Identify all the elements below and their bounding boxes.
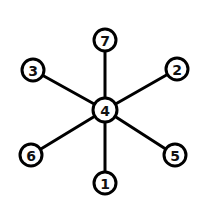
node-3: 3 bbox=[22, 59, 44, 81]
node-label: 2 bbox=[172, 62, 182, 78]
node-label: 4 bbox=[100, 103, 110, 119]
node-label: 6 bbox=[26, 148, 36, 164]
node-7: 7 bbox=[94, 29, 116, 51]
node-2: 2 bbox=[166, 58, 188, 80]
node-4: 4 bbox=[93, 98, 117, 122]
node-label: 7 bbox=[100, 33, 110, 49]
node-label: 1 bbox=[100, 176, 110, 192]
star-graph-diagram: 7324651 bbox=[0, 0, 206, 207]
node-6: 6 bbox=[20, 144, 42, 166]
node-1: 1 bbox=[94, 172, 116, 194]
node-label: 5 bbox=[170, 148, 180, 164]
node-label: 3 bbox=[28, 63, 38, 79]
node-5: 5 bbox=[164, 144, 186, 166]
